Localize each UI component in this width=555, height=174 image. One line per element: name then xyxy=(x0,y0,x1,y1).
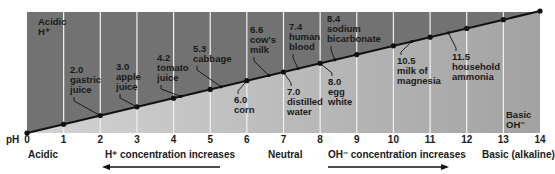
substance-point xyxy=(333,58,336,61)
oh-ion-corner-label: OH⁻ xyxy=(506,119,525,130)
left-arrow xyxy=(102,164,220,170)
right-arrow xyxy=(328,164,449,170)
ph-point xyxy=(427,35,432,40)
ph-axis-label: pH xyxy=(6,134,19,145)
ph-scale-diagram: 2.0gastricjuice3.0applejuice4.2tomatojui… xyxy=(0,0,555,174)
neutral-footer-label: Neutral xyxy=(268,149,303,160)
ph-point xyxy=(391,43,396,48)
substance-point xyxy=(267,74,270,77)
ph-point xyxy=(537,8,542,13)
basic-footer-label: Basic (alkaline) xyxy=(482,149,555,160)
ph-tick-label: 8 xyxy=(317,134,323,145)
ph-tick-label: 14 xyxy=(534,134,546,145)
ph-tick-label: 9 xyxy=(354,134,360,145)
ph-tick-label: 3 xyxy=(134,134,140,145)
substance-point xyxy=(410,40,413,43)
ph-point xyxy=(61,122,66,127)
ph-point xyxy=(501,17,506,22)
ph-tick-label: 4 xyxy=(171,134,177,145)
ph-tick-label: 2 xyxy=(98,134,104,145)
ph-tick-label: 12 xyxy=(461,134,473,145)
ph-tick-label: 11 xyxy=(425,134,436,145)
ph-tick-label: 1 xyxy=(61,134,67,145)
ph-point xyxy=(208,87,213,92)
ph-tick-label: 13 xyxy=(498,134,510,145)
h-ion-corner-label: H⁺ xyxy=(38,26,50,37)
h-concentration-label: H⁺ concentration increases xyxy=(105,149,235,160)
ph-tick-label: 5 xyxy=(207,134,213,145)
oh-concentration-label: OH⁻ concentration increases xyxy=(328,149,466,160)
acidic-footer-label: Acidic xyxy=(28,149,58,160)
substance-point xyxy=(179,95,182,98)
ph-tick-label: 7 xyxy=(281,134,287,145)
substance-point xyxy=(297,67,300,70)
ph-tick-label: 10 xyxy=(388,134,400,145)
ph-point xyxy=(464,26,469,31)
ph-point xyxy=(171,96,176,101)
substance-point xyxy=(447,31,450,34)
ph-tick-label: 6 xyxy=(244,134,250,145)
substance-point xyxy=(220,85,223,88)
ph-tick-label: 0 xyxy=(24,134,30,145)
ph-point xyxy=(354,52,359,57)
ph-ticks: 01234567891011121314 xyxy=(24,134,546,145)
